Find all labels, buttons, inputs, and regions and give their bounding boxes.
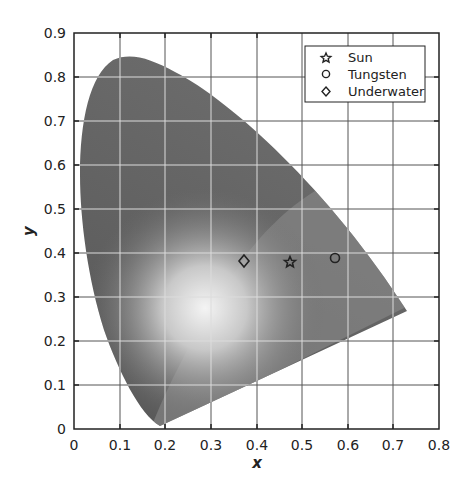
- x-tick-labels: 0 0.1 0.2 0.3 0.4 0.5 0.6 0.7 0.8: [70, 437, 451, 453]
- svg-text:0.5: 0.5: [291, 437, 313, 453]
- svg-text:0.1: 0.1: [44, 377, 66, 393]
- y-axis-label: y: [20, 225, 38, 236]
- svg-text:0: 0: [57, 421, 66, 437]
- x-axis-label: x: [251, 454, 263, 472]
- legend-label-tungsten: Tungsten: [347, 67, 407, 82]
- svg-text:0.8: 0.8: [44, 69, 66, 85]
- svg-text:0.2: 0.2: [154, 437, 176, 453]
- svg-text:0.3: 0.3: [200, 437, 222, 453]
- svg-text:0.4: 0.4: [246, 437, 268, 453]
- svg-text:0.7: 0.7: [382, 437, 404, 453]
- svg-text:0.1: 0.1: [109, 437, 131, 453]
- svg-text:0.7: 0.7: [44, 113, 66, 129]
- svg-text:0.3: 0.3: [44, 289, 66, 305]
- legend-label-sun: Sun: [348, 50, 373, 65]
- y-tick-labels: 0 0.1 0.2 0.3 0.4 0.5 0.6 0.7 0.8 0.9: [44, 25, 66, 437]
- svg-text:0.5: 0.5: [44, 201, 66, 217]
- svg-text:0.2: 0.2: [44, 333, 66, 349]
- svg-text:0.8: 0.8: [428, 437, 450, 453]
- svg-text:0.4: 0.4: [44, 245, 66, 261]
- svg-text:0.6: 0.6: [337, 437, 359, 453]
- svg-text:0.9: 0.9: [44, 25, 66, 41]
- legend: Sun Tungsten Underwater: [305, 46, 425, 102]
- svg-text:0.6: 0.6: [44, 157, 66, 173]
- chromaticity-chart: 0 0.1 0.2 0.3 0.4 0.5 0.6 0.7 0.8 0 0.1 …: [0, 0, 472, 492]
- svg-text:0: 0: [70, 437, 79, 453]
- legend-label-underwater: Underwater: [348, 84, 425, 99]
